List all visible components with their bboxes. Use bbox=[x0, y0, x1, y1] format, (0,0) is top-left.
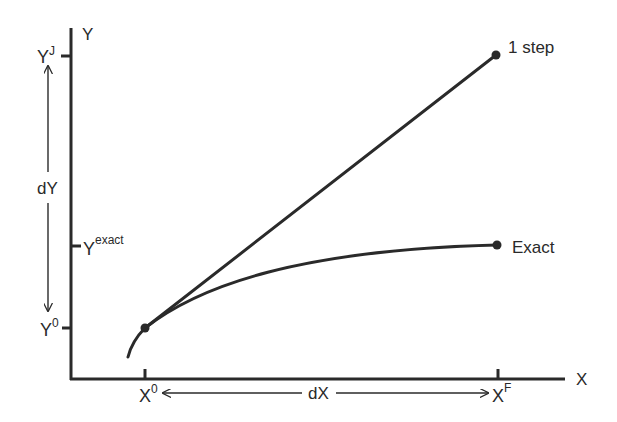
start-point bbox=[141, 324, 150, 333]
euler-step-diagram: Y X YJ Yexact Y0 X0 XF dY bbox=[0, 0, 617, 422]
one-step-line bbox=[145, 55, 496, 328]
x0-label: X0 bbox=[139, 382, 158, 406]
exact-curve bbox=[128, 245, 497, 357]
x-axis-label: X bbox=[576, 370, 587, 389]
xf-label: XF bbox=[492, 381, 511, 406]
dx-label: dX bbox=[308, 384, 329, 403]
yexact-label: Yexact bbox=[83, 233, 124, 259]
yj-label: YJ bbox=[37, 44, 55, 67]
dx-dimension: dX bbox=[163, 384, 488, 403]
curves: 1 step Exact bbox=[128, 38, 555, 357]
axes: Y X bbox=[70, 25, 587, 389]
y-axis-label: Y bbox=[82, 25, 93, 44]
dy-label: dY bbox=[37, 179, 58, 198]
dy-dimension: dY bbox=[37, 66, 58, 311]
exact-endpoint bbox=[493, 241, 502, 250]
one-step-label: 1 step bbox=[508, 38, 554, 57]
one-step-endpoint bbox=[492, 51, 501, 60]
exact-label: Exact bbox=[512, 238, 555, 257]
y0-label: Y0 bbox=[40, 316, 59, 340]
